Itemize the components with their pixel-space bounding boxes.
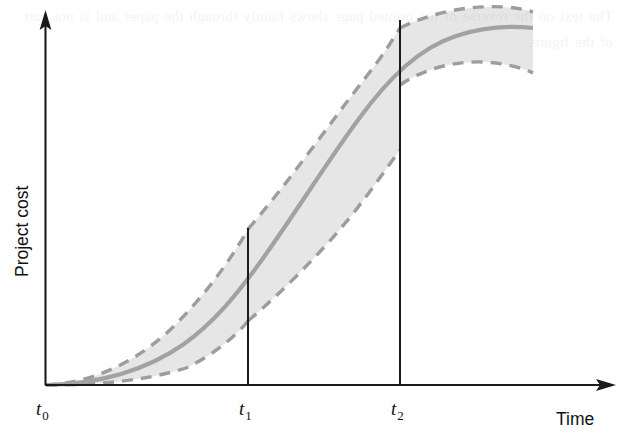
x-tick-t2-var: t: [391, 398, 397, 419]
x-tick-t0-var: t: [36, 398, 42, 419]
x-tick-label-t1: t1: [239, 398, 252, 423]
x-tick-label-t2: t2: [391, 398, 404, 423]
x-tick-labels: t0 t1 t2: [36, 398, 404, 423]
x-axis-title: Time: [556, 409, 594, 429]
x-tick-t1-var: t: [239, 398, 245, 419]
uncertainty-band-phase-1: [46, 229, 248, 385]
y-axis-title: Project cost: [12, 185, 32, 277]
project-cost-figure: The text on the reverse of the printed p…: [0, 0, 631, 444]
x-tick-t1-sub: 1: [245, 408, 252, 423]
x-tick-label-t0: t0: [36, 398, 49, 423]
x-tick-t0-sub: 0: [42, 408, 49, 423]
uncertainty-band-phase-2: [248, 28, 400, 321]
chart-canvas: t0 t1 t2 Project cost Time: [0, 0, 631, 444]
x-tick-t2-sub: 2: [397, 408, 404, 423]
